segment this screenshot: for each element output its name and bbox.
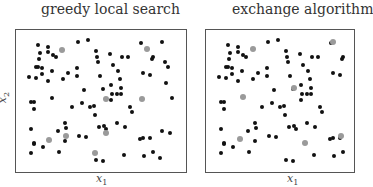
candidate-point [54, 55, 58, 59]
candidate-point [70, 105, 74, 109]
candidate-point [94, 158, 98, 162]
candidate-point [40, 66, 44, 70]
candidate-point [77, 134, 81, 138]
candidate-point [299, 98, 303, 102]
candidate-point [96, 60, 100, 64]
candidate-point [36, 43, 40, 47]
candidate-point [217, 75, 221, 79]
candidate-point [265, 74, 269, 78]
candidate-point [101, 159, 105, 163]
candidate-point [38, 51, 42, 55]
candidate-point [32, 100, 36, 104]
candidate-point [120, 55, 124, 59]
candidate-point [246, 129, 250, 133]
candidate-point [61, 77, 65, 81]
design-point [144, 46, 150, 52]
candidate-point [170, 96, 174, 100]
candidate-point [276, 38, 280, 42]
candidate-point [116, 69, 120, 73]
candidate-point [46, 45, 50, 49]
candidate-point [163, 60, 167, 64]
candidate-point [222, 107, 226, 111]
candidate-point [142, 154, 146, 158]
candidate-point [41, 145, 45, 149]
candidate-point [338, 73, 342, 77]
candidate-point [308, 77, 312, 81]
candidate-point [130, 110, 134, 114]
candidate-point [284, 158, 288, 162]
design-point [302, 140, 308, 146]
candidate-point [226, 43, 230, 47]
candidate-point [236, 45, 240, 49]
candidate-point [128, 105, 132, 109]
candidate-point [236, 79, 240, 83]
design-point [46, 137, 52, 143]
candidate-point [32, 142, 36, 146]
candidate-point [82, 88, 86, 92]
design-point [291, 85, 297, 91]
y-axis-label: x2 [0, 92, 11, 103]
candidate-point [240, 69, 244, 73]
candidate-point [272, 88, 276, 92]
design-point [63, 133, 69, 139]
candidate-point [309, 92, 313, 96]
candidate-point [283, 113, 287, 117]
candidate-point [230, 66, 234, 70]
candidate-point [109, 98, 113, 102]
candidate-point [305, 121, 309, 125]
candidate-point [292, 124, 296, 128]
candidate-point [56, 129, 60, 133]
candidate-point [27, 75, 31, 79]
candidate-point [300, 92, 304, 96]
candidate-point [110, 92, 114, 96]
candidate-point [63, 121, 67, 125]
candidate-point [34, 76, 38, 80]
candidate-point [32, 107, 36, 111]
candidate-point [256, 71, 260, 75]
candidate-point [111, 63, 115, 67]
candidate-point [270, 101, 274, 105]
design-point [92, 150, 98, 156]
candidate-point [222, 142, 226, 146]
x-axis-label-left: x1 [96, 172, 107, 187]
candidate-point [101, 87, 105, 91]
candidate-point [57, 150, 61, 154]
candidate-point [251, 77, 255, 81]
candidate-point [219, 151, 223, 155]
candidate-point [318, 105, 322, 109]
candidate-point [253, 121, 257, 125]
design-point [330, 39, 336, 45]
candidate-point [247, 150, 251, 154]
candidate-point [86, 38, 90, 42]
candidate-point [63, 139, 67, 143]
candidate-point [66, 71, 70, 75]
candidate-point [285, 55, 289, 59]
candidate-point [37, 57, 41, 61]
candidate-point [282, 104, 286, 108]
candidate-point [331, 136, 335, 140]
candidate-point [312, 153, 316, 157]
candidate-point [115, 121, 119, 125]
candidate-point [287, 125, 291, 129]
candidate-point [40, 72, 44, 76]
candidate-point [151, 55, 155, 59]
candidate-point [227, 57, 231, 61]
candidate-point [231, 145, 235, 149]
candidate-point [253, 139, 257, 143]
candidate-point [274, 135, 278, 139]
candidate-point [291, 159, 295, 163]
x-axis-label-right: x1 [287, 172, 298, 187]
candidate-point [158, 156, 162, 160]
plot-frame-right [205, 29, 355, 173]
candidate-point [46, 50, 50, 54]
candidate-point [97, 125, 101, 129]
candidate-point [119, 86, 123, 90]
candidate-point [93, 113, 97, 117]
candidate-point [332, 154, 336, 158]
design-point [250, 46, 256, 52]
candidate-point [298, 52, 302, 56]
candidate-point [75, 74, 79, 78]
design-point [103, 96, 109, 102]
candidate-point [160, 129, 164, 133]
candidate-point [75, 66, 79, 70]
